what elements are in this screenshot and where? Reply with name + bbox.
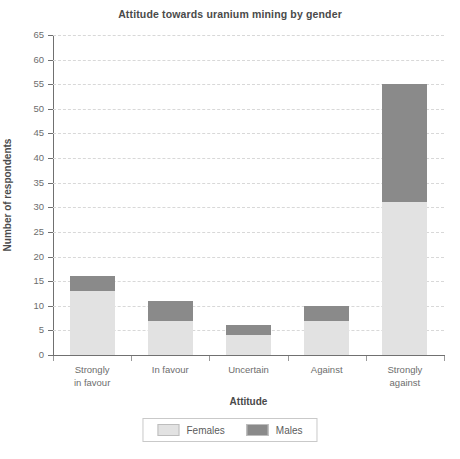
y-tick-mark <box>48 35 53 36</box>
chart-legend: FemalesMales <box>142 418 317 442</box>
bar-segment-females[interactable] <box>226 335 271 355</box>
legend-label: Males <box>276 425 303 436</box>
y-tick-mark <box>48 306 53 307</box>
bar-segment-females[interactable] <box>304 321 349 355</box>
bar-segment-males[interactable] <box>382 84 427 202</box>
x-tick-mark <box>366 356 367 361</box>
y-tick-label: 45 <box>33 129 44 139</box>
y-tick-label: 40 <box>33 153 44 163</box>
bar-segment-females[interactable] <box>382 202 427 355</box>
y-tick-mark <box>48 183 53 184</box>
y-tick-mark <box>48 207 53 208</box>
bar-segment-females[interactable] <box>148 321 193 355</box>
bar-segment-females[interactable] <box>70 291 115 355</box>
bar-segment-males[interactable] <box>70 276 115 291</box>
bar-group[interactable] <box>148 35 193 355</box>
legend-item-males[interactable]: Males <box>247 424 303 436</box>
x-tick-label: Strongly against <box>366 363 444 389</box>
y-tick-label: 15 <box>33 276 44 286</box>
bar-group[interactable] <box>304 35 349 355</box>
bar-segment-males[interactable] <box>304 306 349 321</box>
y-tick-mark <box>48 281 53 282</box>
y-axis-title: Number of respondents <box>2 35 16 355</box>
y-tick-label: 20 <box>33 252 44 262</box>
x-axis-line <box>53 355 445 356</box>
y-tick-label: 10 <box>33 301 44 311</box>
y-tick-label: 5 <box>39 326 44 336</box>
legend-label: Females <box>186 425 224 436</box>
legend-swatch-females <box>157 424 179 436</box>
bar-segment-males[interactable] <box>148 301 193 321</box>
y-tick-label: 35 <box>33 178 44 188</box>
legend-swatch-males <box>247 424 269 436</box>
x-axis-title: Attitude <box>53 396 444 407</box>
legend-item-females[interactable]: Females <box>157 424 224 436</box>
bar-group[interactable] <box>70 35 115 355</box>
y-tick-mark <box>48 158 53 159</box>
y-tick-label: 30 <box>33 203 44 213</box>
bar-group[interactable] <box>382 35 427 355</box>
y-tick-label: 25 <box>33 227 44 237</box>
x-tick-mark <box>209 356 210 361</box>
y-tick-mark <box>48 257 53 258</box>
x-tick-label: Uncertain <box>209 363 287 376</box>
x-tick-mark <box>444 356 445 361</box>
y-tick-mark <box>48 232 53 233</box>
y-tick-label: 0 <box>39 350 44 360</box>
bar-group[interactable] <box>226 35 271 355</box>
x-tick-label: In favour <box>131 363 209 376</box>
y-tick-label: 60 <box>33 55 44 65</box>
y-tick-mark <box>48 60 53 61</box>
y-tick-label: 65 <box>33 30 44 40</box>
y-tick-mark <box>48 330 53 331</box>
x-tick-label: Against <box>288 363 366 376</box>
chart-container: Attitude towards uranium mining by gende… <box>0 0 460 459</box>
y-tick-label: 55 <box>33 79 44 89</box>
plot-area <box>53 35 444 355</box>
y-tick-mark <box>48 84 53 85</box>
x-tick-mark <box>288 356 289 361</box>
y-tick-mark <box>48 109 53 110</box>
x-tick-mark <box>131 356 132 361</box>
y-tick-mark <box>48 133 53 134</box>
x-tick-mark <box>53 356 54 361</box>
y-tick-label: 50 <box>33 104 44 114</box>
bar-segment-males[interactable] <box>226 325 271 335</box>
x-tick-label: Strongly in favour <box>53 363 131 389</box>
chart-title: Attitude towards uranium mining by gende… <box>0 8 460 20</box>
